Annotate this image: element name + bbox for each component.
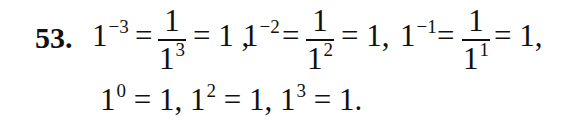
exponent: 1 — [480, 39, 490, 60]
exponent: −3 — [109, 16, 129, 37]
base: 1 — [190, 82, 206, 117]
power-1-neg2: 1−2 — [243, 20, 280, 51]
equation-part: = 1. — [306, 82, 362, 117]
numerator: 1 — [158, 5, 186, 36]
equation-part: = 1, — [126, 82, 190, 117]
fraction-1-over-1-cubed: 1 13 — [158, 5, 186, 74]
exponent: 2 — [206, 80, 216, 101]
exponent: 3 — [176, 39, 186, 60]
numerator: 1 — [462, 5, 490, 36]
equals-result-1: = 1 , — [193, 20, 249, 51]
denominator: 13 — [158, 43, 186, 74]
exponent: −1 — [417, 16, 437, 37]
equals-result-3: = 1, — [494, 20, 542, 51]
power-1-neg1: 1−1 — [400, 20, 437, 51]
numerator: 1 — [306, 5, 334, 36]
line-2: 10 = 1, 12 = 1, 13 = 1. — [100, 84, 362, 115]
exponent: 3 — [296, 80, 306, 101]
exponent: −2 — [260, 16, 280, 37]
power-1-neg3: 1−3 — [92, 20, 129, 51]
fraction-1-over-1-squared: 1 12 — [306, 5, 334, 74]
fraction-1-over-1-first: 1 11 — [462, 5, 490, 74]
exponent: 0 — [117, 80, 127, 101]
equation-part: = 1, — [216, 82, 280, 117]
equals-result-2: = 1, — [341, 20, 389, 51]
base: 1 — [243, 18, 259, 53]
base: 1 — [159, 41, 175, 76]
exponent: 2 — [324, 39, 334, 60]
denominator: 12 — [306, 43, 334, 74]
base: 1 — [400, 18, 416, 53]
equals-sign: = — [437, 20, 454, 51]
equals-sign: = — [135, 20, 152, 51]
denominator: 11 — [462, 43, 490, 74]
base: 1 — [307, 41, 323, 76]
base: 1 — [463, 41, 479, 76]
base: 1 — [280, 82, 296, 117]
problem-number: 53. — [35, 21, 73, 55]
base: 1 — [92, 18, 108, 53]
equals-sign: = — [282, 20, 299, 51]
base: 1 — [100, 82, 116, 117]
